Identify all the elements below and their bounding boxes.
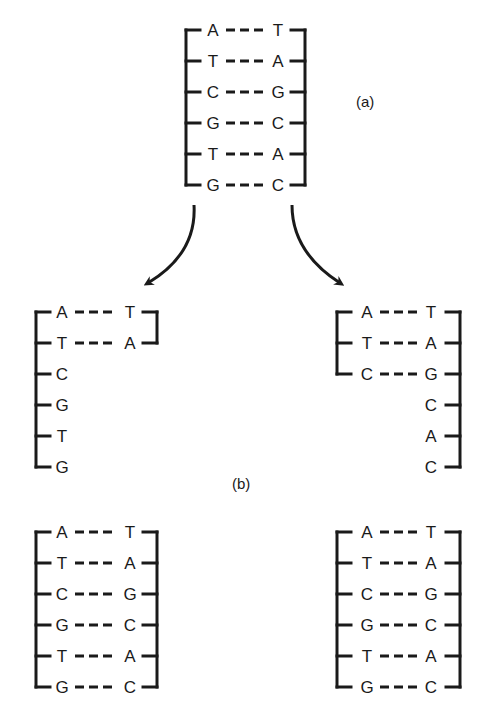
base-left: G	[55, 616, 68, 635]
daughter-helix-left: ATTACGGCTAGC	[36, 523, 157, 697]
replicating-fork-left: ATTACGTG	[36, 303, 157, 477]
arrow-to-right-fork	[292, 205, 340, 283]
base-left: A	[56, 523, 68, 542]
base-right: A	[124, 554, 136, 573]
base-right: T	[125, 303, 135, 322]
base-left: C	[361, 585, 373, 604]
base-right: T	[273, 21, 283, 40]
base-right: A	[425, 647, 437, 666]
base-right: A	[425, 554, 437, 573]
base-right: G	[424, 585, 437, 604]
base-right: A	[124, 647, 136, 666]
parent-double-helix: ATTACGGCTAGC	[186, 21, 305, 195]
base-right: A	[124, 334, 136, 353]
dna-replication-diagram: ATTACGGCTAGC (a) ATTACGTG ATTACGCAC (b) …	[0, 0, 487, 713]
base-right: G	[123, 585, 136, 604]
daughter-helix-right: ATTACGGCTAGC	[337, 523, 460, 697]
base-left: G	[206, 176, 219, 195]
base-right: C	[425, 678, 437, 697]
base-right: C	[124, 678, 136, 697]
base-left: T	[208, 145, 218, 164]
base-left: G	[360, 616, 373, 635]
base-right: C	[425, 396, 437, 415]
base-left: G	[55, 396, 68, 415]
base-right: A	[272, 145, 284, 164]
base-left: C	[56, 585, 68, 604]
base-right: C	[425, 458, 437, 477]
base-left: G	[55, 458, 68, 477]
replicating-fork-right: ATTACGCAC	[337, 303, 460, 477]
label-a: (a)	[356, 93, 374, 110]
base-left: T	[57, 334, 67, 353]
base-left: C	[56, 365, 68, 384]
base-right: C	[272, 114, 284, 133]
base-right: C	[272, 176, 284, 195]
base-left: A	[361, 303, 373, 322]
label-b: (b)	[232, 475, 250, 492]
base-right: T	[426, 303, 436, 322]
base-left: C	[207, 83, 219, 102]
base-left: T	[362, 554, 372, 573]
base-right: T	[125, 523, 135, 542]
base-left: G	[55, 678, 68, 697]
base-left: A	[207, 21, 219, 40]
base-left: C	[361, 365, 373, 384]
base-right: A	[425, 427, 437, 446]
base-left: T	[57, 554, 67, 573]
base-right: C	[124, 616, 136, 635]
arrow-to-left-fork	[148, 205, 194, 283]
base-right: A	[272, 52, 284, 71]
base-left: T	[208, 52, 218, 71]
base-left: T	[362, 647, 372, 666]
base-left: A	[56, 303, 68, 322]
base-left: G	[360, 678, 373, 697]
base-right: A	[425, 334, 437, 353]
base-left: T	[57, 427, 67, 446]
base-right: G	[424, 365, 437, 384]
base-right: T	[426, 523, 436, 542]
base-right: C	[425, 616, 437, 635]
base-left: T	[57, 647, 67, 666]
base-right: G	[271, 83, 284, 102]
base-left: A	[361, 523, 373, 542]
base-left: T	[362, 334, 372, 353]
base-left: G	[206, 114, 219, 133]
